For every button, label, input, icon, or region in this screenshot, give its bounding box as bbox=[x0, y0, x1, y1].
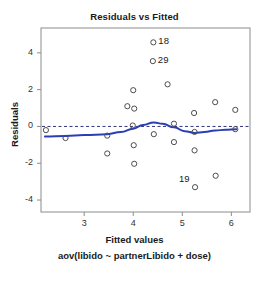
outlier-label-19: 19 bbox=[179, 173, 190, 184]
x-tick-label: 4 bbox=[125, 218, 141, 228]
data-point bbox=[151, 40, 156, 45]
outlier-label-29: 29 bbox=[158, 54, 169, 65]
loess-smooth-curve bbox=[45, 122, 236, 136]
data-point bbox=[151, 132, 156, 137]
x-axis-sublabel: aov(libido ~ partnerLibido + dose) bbox=[0, 250, 269, 261]
x-tick-label: 5 bbox=[174, 218, 190, 228]
residuals-vs-fitted-chart: Residuals vs Fitted Residuals Fitted val… bbox=[0, 0, 269, 282]
data-point bbox=[132, 106, 137, 111]
data-point bbox=[130, 123, 135, 128]
data-point bbox=[192, 148, 197, 153]
data-point bbox=[213, 173, 218, 178]
data-point bbox=[150, 59, 155, 64]
y-tick-label: 2 bbox=[17, 84, 33, 94]
x-tick-label: 3 bbox=[76, 218, 92, 228]
data-point bbox=[171, 121, 176, 126]
data-point bbox=[192, 185, 197, 190]
data-point bbox=[171, 139, 176, 144]
data-point bbox=[233, 107, 238, 112]
y-tick-label: 0 bbox=[17, 120, 33, 130]
data-point bbox=[43, 128, 48, 133]
y-tick-label: 4 bbox=[17, 47, 33, 57]
x-tick-label: 6 bbox=[223, 218, 239, 228]
data-point bbox=[191, 110, 196, 115]
data-point bbox=[125, 104, 130, 109]
y-tick-label: -2 bbox=[17, 157, 33, 167]
y-tick-label: -4 bbox=[17, 194, 33, 204]
data-point bbox=[165, 82, 170, 87]
data-point bbox=[132, 161, 137, 166]
outlier-label-18: 18 bbox=[158, 35, 169, 46]
data-points bbox=[43, 40, 238, 190]
plot-frame bbox=[41, 28, 250, 212]
data-point bbox=[213, 100, 218, 105]
data-point bbox=[131, 143, 136, 148]
data-point bbox=[131, 88, 136, 93]
data-point bbox=[105, 151, 110, 156]
x-axis-label: Fitted values bbox=[0, 234, 269, 245]
